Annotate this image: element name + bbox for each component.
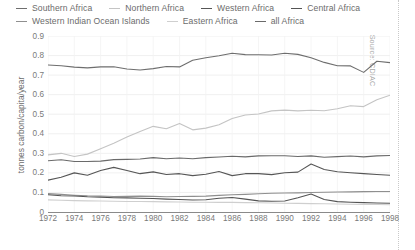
- legend-item-label: Western Indian Ocean Islands: [32, 16, 150, 27]
- legend-line-swatch-icon: [291, 8, 302, 9]
- y-axis-tick-label: 0.6: [24, 90, 44, 99]
- gridlines: [48, 36, 390, 212]
- legend-item-all-africa[interactable]: all Africa: [255, 16, 304, 27]
- legend-item-northern-africa[interactable]: Northern Africa: [109, 3, 184, 14]
- y-axis-tick-label: 0.2: [24, 168, 44, 177]
- legend-item-central-africa[interactable]: Central Africa: [291, 3, 360, 14]
- right-dotted-divider: [398, 0, 399, 250]
- legend-line-swatch-icon: [16, 8, 27, 9]
- legend-item-label: Northern Africa: [125, 3, 184, 14]
- legend-line-swatch-icon: [109, 8, 120, 9]
- series-line-northern-africa: [48, 95, 390, 156]
- legend-line-swatch-icon: [255, 21, 266, 22]
- series-line-eastern-africa: [48, 200, 390, 205]
- plot-area: [48, 36, 390, 212]
- chart-legend: Southern AfricaNorthern AfricaWestern Af…: [16, 2, 388, 28]
- x-axis-tick-label: 1998: [375, 214, 405, 224]
- series-line-southern-africa: [48, 53, 390, 72]
- legend-row: Southern AfricaNorthern AfricaWestern Af…: [16, 2, 388, 15]
- legend-line-swatch-icon: [16, 21, 27, 22]
- legend-item-western-africa[interactable]: Western Africa: [201, 3, 274, 14]
- y-axis-tick-label: 0.4: [24, 129, 44, 138]
- legend-item-southern-africa[interactable]: Southern Africa: [16, 3, 92, 14]
- legend-item-label: Eastern Africa: [183, 16, 238, 27]
- y-axis-tick-label: 0.9: [24, 32, 44, 41]
- y-axis-tick-label: 0.3: [24, 149, 44, 158]
- x-axis-line: [48, 212, 390, 213]
- legend-row: Western Indian Ocean IslandsEastern Afri…: [16, 15, 388, 28]
- legend-item-label: Western Africa: [217, 3, 274, 14]
- legend-item-western-indian-ocean-islands[interactable]: Western Indian Ocean Islands: [16, 16, 150, 27]
- line-chart-svg: [48, 36, 390, 212]
- y-axis-tick-label: 0.8: [24, 51, 44, 60]
- series-line-western-africa: [48, 164, 390, 180]
- y-axis-tick-label: 0.7: [24, 71, 44, 80]
- y-axis-tick-label: 0.5: [24, 110, 44, 119]
- legend-item-label: Central Africa: [307, 3, 360, 14]
- legend-item-label: Southern Africa: [32, 3, 92, 14]
- chart-figure: Southern AfricaNorthern AfricaWestern Af…: [0, 0, 415, 250]
- legend-item-eastern-africa[interactable]: Eastern Africa: [167, 16, 238, 27]
- legend-item-label: all Africa: [271, 16, 304, 27]
- legend-line-swatch-icon: [201, 8, 212, 9]
- y-axis-tick-label: 0.1: [24, 188, 44, 197]
- legend-line-swatch-icon: [167, 21, 178, 22]
- series-line-all-africa: [48, 155, 390, 161]
